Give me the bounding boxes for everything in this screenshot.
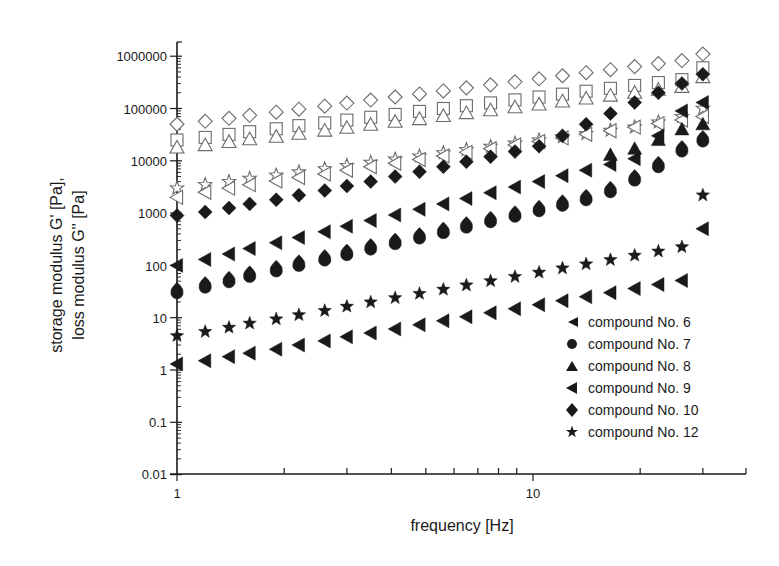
triangle-left-marker-icon [318, 225, 331, 239]
star-marker-icon [222, 321, 235, 334]
triangle-left-marker-icon [579, 163, 592, 177]
star-marker-icon [389, 291, 402, 304]
circle-marker-icon [460, 217, 472, 234]
triangle-left-marker-icon [532, 175, 545, 189]
triangle-left-marker-icon [340, 330, 353, 344]
diamond-marker-icon [198, 205, 212, 219]
diamond-marker-icon [243, 197, 257, 211]
legend-label: compound No. 10 [588, 402, 699, 418]
star-marker-icon [580, 257, 593, 270]
star-marker-icon [292, 308, 305, 321]
star-marker-icon [413, 287, 426, 300]
circle-marker-icon [676, 140, 688, 157]
y-tick-label: 10 [153, 311, 167, 326]
triangle-left-marker-icon [651, 278, 664, 292]
y-tick-label: 1000 [138, 206, 167, 221]
triangle-left-marker-icon [436, 197, 449, 211]
legend-label: compound No. 7 [588, 336, 691, 352]
diamond-marker-icon [292, 102, 306, 116]
legend-label: compound No. 12 [588, 424, 699, 440]
diamond-marker-icon [364, 175, 378, 189]
diamond-marker-icon [170, 208, 184, 222]
y-tick-label: 100 [145, 259, 167, 274]
circle-marker-icon [556, 195, 568, 212]
triangle-left-marker-icon [364, 214, 377, 228]
circle-marker-icon [171, 282, 183, 299]
star-marker-icon [484, 274, 497, 287]
y-axis-title-line2: loss modulus G'' [Pa] [70, 190, 87, 339]
star-marker-icon [604, 253, 617, 266]
diamond-marker-icon [413, 87, 427, 101]
triangle-left-marker-icon [628, 282, 641, 296]
diamond-marker-icon [651, 57, 665, 71]
series-compound-no-6-g-open-triangle-left- [170, 110, 708, 205]
diamond-marker-icon [603, 63, 617, 77]
rheology-chart: 1000000 100000 10000 1000 100 10 1 0.1 0… [0, 0, 779, 566]
diamond-marker-icon [555, 69, 569, 83]
diamond-marker-icon [198, 114, 212, 128]
triangle-left-marker-icon [364, 326, 377, 340]
diamond-marker-icon [579, 66, 593, 80]
triangle-left-marker-icon [388, 322, 401, 336]
y-tick-label: 1000000 [116, 49, 167, 64]
triangle-up-marker-icon [628, 142, 642, 155]
circle-marker-icon [533, 200, 545, 217]
triangle-left-marker-icon [269, 236, 282, 250]
triangle-left-marker-icon [243, 346, 256, 360]
y-tick-label: 1 [160, 363, 167, 378]
diamond-marker-icon [292, 188, 306, 202]
diamond-marker-icon [318, 99, 332, 113]
circle-marker-icon [437, 222, 449, 239]
diamond-marker-icon [484, 78, 498, 92]
triangle-left-marker-icon [413, 202, 426, 216]
y-tick-label: 100000 [124, 102, 167, 117]
diamond-marker-icon [413, 165, 427, 179]
legend-item-compound-6: compound No. 6 [568, 314, 691, 330]
triangle-left-marker-icon [292, 231, 305, 245]
triangle-left-marker-icon [459, 310, 472, 324]
legend-label: compound No. 8 [588, 358, 691, 374]
circle-marker-icon [270, 260, 282, 277]
triangle-left-marker-icon [198, 354, 211, 368]
x-axis-title: frequency [Hz] [410, 517, 513, 534]
triangle-left-marker-icon [388, 208, 401, 222]
x-tick-labels: 1 10 [173, 486, 540, 501]
y-tick-label: 0.1 [149, 415, 167, 430]
triangle-left-marker-icon [413, 318, 426, 332]
triangle-left-marker-icon [292, 338, 305, 352]
star-marker-icon [364, 295, 377, 308]
circle-marker-icon [223, 271, 235, 288]
triangle-left-marker-icon [508, 302, 521, 316]
star-marker-icon [243, 316, 256, 329]
y-tick-label: 0.01 [142, 467, 167, 482]
star-marker-icon [566, 426, 578, 438]
diamond-marker-icon [628, 60, 642, 74]
legend-item-compound-10: compound No. 10 [566, 402, 699, 418]
star-marker-icon [628, 248, 641, 261]
legend-item-compound-8: compound No. 8 [566, 358, 691, 374]
triangle-left-marker-icon [568, 317, 578, 327]
diamond-marker-icon [388, 170, 402, 184]
triangle-left-marker-icon [243, 242, 256, 256]
triangle-left-marker-icon [459, 192, 472, 206]
legend-label: compound No. 9 [588, 380, 691, 396]
diamond-marker-icon [269, 193, 283, 207]
star-marker-icon [340, 300, 353, 313]
circle-marker-icon [341, 244, 353, 261]
x-tick-label: 10 [526, 486, 540, 501]
legend: compound No. 6 compound No. 7 compound N… [566, 314, 699, 440]
diamond-marker-icon [170, 117, 184, 131]
diamond-marker-icon [243, 108, 257, 122]
triangle-left-marker-icon [222, 247, 235, 261]
circle-marker-icon [365, 239, 377, 256]
triangle-left-marker-icon [603, 286, 616, 300]
x-tick-label: 1 [173, 486, 180, 501]
star-marker-icon [199, 325, 212, 338]
triangle-left-marker-icon [532, 298, 545, 312]
triangle-left-marker-icon [340, 219, 353, 233]
triangle-left-marker-icon [566, 382, 577, 394]
diamond-marker-icon [340, 179, 354, 193]
diamond-marker-icon [675, 54, 689, 68]
triangle-left-marker-icon [222, 350, 235, 364]
circle-marker-icon [389, 233, 401, 250]
